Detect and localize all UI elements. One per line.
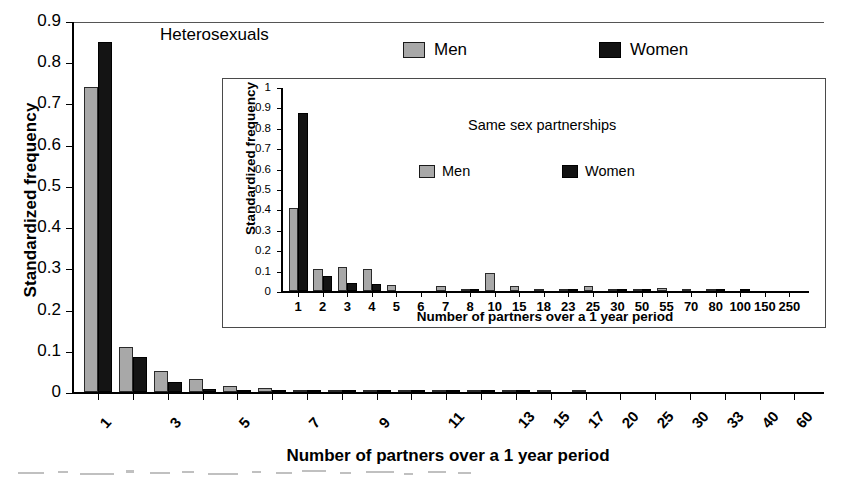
main-x-tick-mark — [655, 393, 656, 400]
inset-bar-men-7 — [436, 286, 445, 292]
inset-y-tick-label: 0.8 — [237, 123, 271, 133]
main-x-tick-mark — [203, 393, 204, 400]
inset-legend-item-men: Men — [419, 163, 470, 179]
inset-y-tick-label: 0.9 — [237, 102, 271, 112]
main-legend-item-men: Men — [403, 40, 467, 60]
inset-x-tick-mark — [568, 292, 569, 297]
inset-bar-women-4 — [372, 284, 381, 291]
main-x-tick-mark — [516, 393, 517, 400]
main-x-tick-mark — [237, 393, 238, 400]
inset-bar-men-23 — [559, 289, 568, 291]
main-legend-label-women: Women — [630, 40, 688, 60]
main-y-tick-label: 0.4 — [17, 220, 61, 234]
scan-speck — [182, 471, 194, 473]
inset-x-axis-label: Number of partners over a 1 year period — [281, 309, 809, 324]
inset-y-tick-label: 0 — [237, 286, 271, 296]
main-y-tick-label: 0.2 — [17, 303, 61, 317]
main-x-tick-label: 7 — [305, 414, 323, 432]
bar-men-9 — [363, 390, 377, 392]
main-y-tick-label: 0.9 — [17, 14, 61, 28]
inset-legend-item-women: Women — [562, 163, 635, 179]
inset-x-tick-mark — [642, 292, 643, 297]
main-x-tick-label: 25 — [653, 408, 677, 432]
inset-bar-women-50 — [642, 289, 651, 291]
scan-speck — [428, 471, 446, 473]
bar-women-1 — [98, 42, 112, 392]
main-x-tick-label: 1 — [96, 414, 114, 432]
bar-men-17 — [572, 390, 586, 392]
main-x-tick-mark — [377, 393, 378, 400]
bar-men-1 — [84, 87, 98, 392]
main-chart-title: Heterosexuals — [160, 25, 269, 45]
bar-women-13 — [516, 390, 530, 392]
main-x-tick-mark — [411, 393, 412, 400]
main-x-tick-label: 20 — [618, 408, 642, 432]
inset-bar-men-15 — [510, 286, 519, 292]
inset-y-tick-label: 0.4 — [237, 204, 271, 214]
inset-axis-bottom — [281, 291, 809, 293]
main-x-tick-mark — [690, 393, 691, 400]
inset-x-tick-mark — [716, 292, 717, 297]
inset-bar-men-30 — [608, 289, 617, 291]
inset-x-tick-mark — [691, 292, 692, 297]
inset-bar-men-25 — [584, 286, 593, 291]
inset-bar-men-10 — [485, 273, 494, 291]
bar-women-10 — [411, 390, 425, 392]
bar-men-5 — [223, 386, 237, 392]
inset-x-tick-mark — [765, 292, 766, 297]
main-y-tick-label: 0.7 — [17, 96, 61, 110]
inset-bar-men-8 — [461, 289, 470, 291]
inset-bar-women-100 — [740, 289, 749, 291]
inset-bar-women-30 — [617, 289, 626, 291]
inset-x-tick-mark — [495, 292, 496, 297]
inset-legend-label-women: Women — [585, 163, 635, 179]
bar-women-3 — [168, 382, 182, 392]
inset-x-tick-mark — [740, 292, 741, 297]
main-x-tick-mark — [760, 393, 761, 400]
bar-men-11 — [432, 390, 446, 392]
bar-men-13 — [502, 390, 516, 392]
bar-women-4 — [203, 389, 217, 392]
main-x-tick-label: 33 — [723, 408, 747, 432]
scan-speck — [302, 470, 326, 472]
inset-x-tick-mark — [617, 292, 618, 297]
scan-speck — [252, 471, 261, 473]
main-y-tick-label: 0.5 — [17, 179, 61, 193]
main-y-tick-label: 0 — [17, 385, 61, 399]
main-x-tick-label: 9 — [375, 414, 393, 432]
scan-artifact-strip — [0, 466, 848, 482]
inset-legend-swatch-women-icon — [562, 165, 578, 178]
inset-x-tick-mark — [544, 292, 545, 297]
inset-x-tick-mark — [789, 292, 790, 297]
inset-bar-men-4 — [363, 269, 372, 291]
main-x-tick-label: 13 — [514, 408, 538, 432]
inset-y-tick-label: 0.5 — [237, 184, 271, 194]
main-axis-top — [72, 22, 824, 23]
inset-bar-men-50 — [633, 289, 642, 291]
main-x-tick-mark — [307, 393, 308, 400]
main-y-tick-label: 0.8 — [17, 55, 61, 69]
main-x-tick-mark — [586, 393, 587, 400]
inset-bar-women-23 — [568, 289, 577, 291]
scan-speck — [404, 473, 413, 475]
main-x-tick-mark — [168, 393, 169, 400]
inset-y-tick-label: 0.3 — [237, 225, 271, 235]
inset-bar-men-80 — [706, 289, 715, 291]
bar-women-11 — [446, 390, 460, 392]
bar-men-10 — [398, 390, 412, 392]
inset-bar-men-1 — [289, 208, 298, 291]
inset-bar-women-80 — [716, 289, 725, 291]
inset-x-tick-mark — [667, 292, 668, 297]
scan-speck — [276, 472, 292, 474]
inset-bar-men-70 — [682, 289, 691, 291]
scan-speck — [458, 472, 471, 474]
bar-women-12 — [481, 390, 495, 392]
inset-y-tick-label: 0.1 — [237, 266, 271, 276]
inset-bar-women-2 — [323, 276, 332, 291]
bar-women-9 — [377, 390, 391, 392]
bar-men-3 — [154, 371, 168, 392]
main-x-tick-label: 40 — [758, 408, 782, 432]
bar-men-15 — [537, 390, 551, 392]
main-x-tick-label: 15 — [549, 408, 573, 432]
bar-men-6 — [258, 388, 272, 392]
